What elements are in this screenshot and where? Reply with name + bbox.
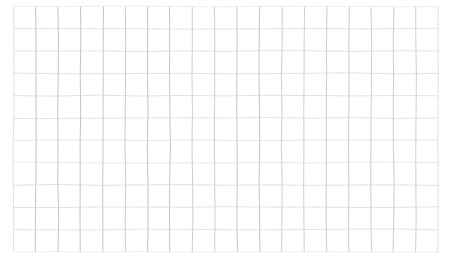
grid-border-horizontal xyxy=(14,6,439,7)
grid-line-vertical xyxy=(304,7,305,252)
grid-line-horizontal xyxy=(14,162,439,163)
grid-line-horizontal xyxy=(14,185,439,186)
grid-line-vertical xyxy=(58,7,59,252)
grid-line-horizontal xyxy=(14,140,439,141)
grid-line-vertical xyxy=(416,7,417,252)
grid-border-horizontal xyxy=(14,252,439,253)
grid-line-vertical xyxy=(35,7,36,252)
grid-lines xyxy=(0,0,454,266)
graph-paper-canvas xyxy=(0,0,454,266)
grid-line-horizontal xyxy=(14,51,439,52)
grid-line-vertical xyxy=(170,7,171,252)
grid-line-vertical xyxy=(103,7,104,252)
grid-border-vertical xyxy=(438,7,439,252)
grid-line-horizontal xyxy=(14,117,439,118)
grid-line-vertical xyxy=(371,7,372,252)
grid-border-vertical xyxy=(13,7,14,252)
grid-line-horizontal xyxy=(14,73,439,74)
grid-line-vertical xyxy=(281,7,282,252)
grid-line-vertical xyxy=(125,7,126,252)
grid-line-vertical xyxy=(192,7,193,252)
grid-line-horizontal xyxy=(14,28,439,29)
grid-line-horizontal xyxy=(14,229,439,230)
grid-line-vertical xyxy=(147,7,148,252)
grid-line-vertical xyxy=(214,7,215,252)
grid-line-vertical xyxy=(393,7,394,252)
grid-line-vertical xyxy=(237,7,238,252)
grid-line-vertical xyxy=(80,7,81,252)
grid-line-vertical xyxy=(326,7,327,252)
grid-line-horizontal xyxy=(14,207,439,208)
grid-line-vertical xyxy=(259,7,260,252)
grid-line-horizontal xyxy=(14,95,439,96)
grid-line-vertical xyxy=(349,7,350,252)
